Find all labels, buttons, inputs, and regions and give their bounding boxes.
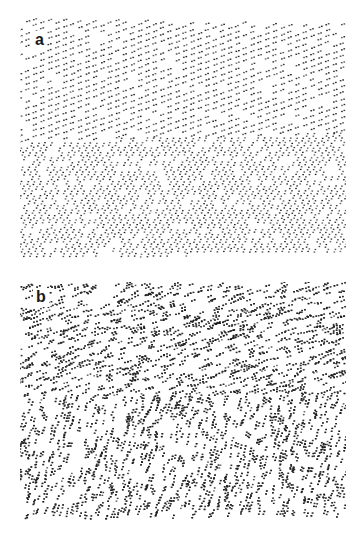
panel-b-label: b bbox=[33, 288, 49, 307]
panel-b-dot-pattern bbox=[20, 282, 346, 520]
panel-a-label: a bbox=[32, 31, 47, 50]
panel-a-texture: a bbox=[20, 18, 346, 260]
panel-a-dot-pattern bbox=[20, 18, 346, 260]
panel-b-texture: b bbox=[20, 282, 346, 520]
figure: a b bbox=[0, 0, 364, 534]
